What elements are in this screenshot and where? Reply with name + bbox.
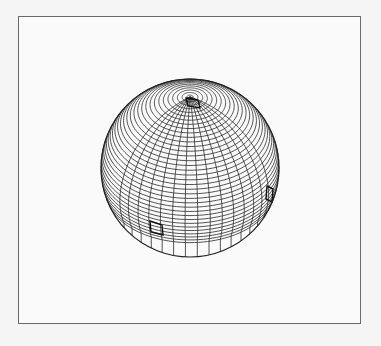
meridian-lines — [120, 97, 269, 257]
latitude-line — [150, 80, 230, 128]
meridian-line — [185, 97, 190, 257]
sphere-diagram — [0, 0, 381, 346]
meridian-line — [173, 97, 190, 256]
latitude-line — [138, 79, 242, 142]
highlighted-cells — [150, 98, 273, 235]
meridian-line — [190, 97, 198, 257]
